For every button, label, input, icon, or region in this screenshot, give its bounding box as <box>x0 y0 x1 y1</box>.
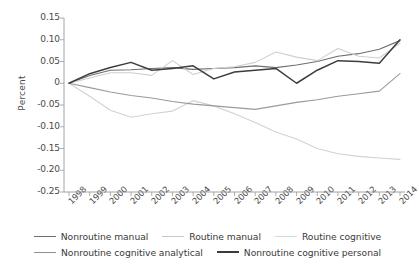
legend-label: Nonroutine cognitive analytical <box>61 247 203 258</box>
series-line <box>69 43 400 83</box>
chart-legend: Nonroutine manualRoutine manualRoutine c… <box>0 228 415 260</box>
legend-row-bottom: Nonroutine cognitive analyticalNonroutin… <box>0 244 415 260</box>
series-line <box>69 40 400 84</box>
legend-label: Nonroutine cognitive personal <box>244 247 381 258</box>
legend-label: Routine manual <box>189 231 261 242</box>
legend-item: Routine manual <box>162 231 261 242</box>
legend-line-swatch <box>217 251 239 253</box>
legend-line-swatch <box>162 236 184 237</box>
legend-item: Nonroutine cognitive personal <box>217 247 381 258</box>
legend-item: Nonroutine cognitive analytical <box>34 247 203 258</box>
legend-label: Routine cognitive <box>302 231 381 242</box>
legend-line-swatch <box>34 236 56 237</box>
series-line <box>69 41 400 84</box>
legend-row-top: Nonroutine manualRoutine manualRoutine c… <box>0 228 415 244</box>
series-lines <box>69 40 400 160</box>
legend-line-swatch <box>34 252 56 253</box>
series-line <box>69 74 400 110</box>
legend-label: Nonroutine manual <box>61 231 148 242</box>
legend-item: Routine cognitive <box>275 231 381 242</box>
legend-line-swatch <box>275 236 297 237</box>
legend-item: Nonroutine manual <box>34 231 148 242</box>
